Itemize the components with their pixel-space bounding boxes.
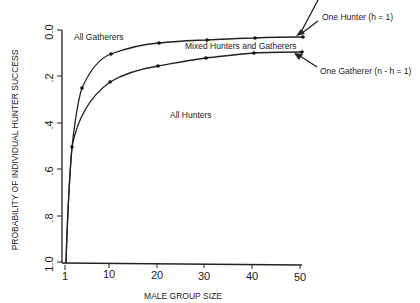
one-hunter-curve: [66, 37, 303, 263]
y-tick-labels: 0.0 .2 .4 .6 .8 1.0: [43, 24, 55, 271]
x-axis: [62, 263, 302, 265]
mixed-label: Mixed Hunters and Gatherers: [185, 41, 297, 51]
y-tick-4: .8: [43, 213, 55, 222]
x-tick-labels: 1 10 20 30 40 50: [62, 268, 306, 283]
y-tick-1: .2: [43, 73, 55, 82]
x-tick-2: 20: [151, 269, 163, 281]
all-hunters-label: All Hunters: [170, 110, 212, 120]
y-tick-0: 0.0: [43, 24, 55, 39]
all-gatherers-label: All Gatherers: [74, 32, 124, 42]
y-axis-title: PROBABILITY OF INDIVIDUAL HUNTER SUCCESS: [10, 49, 20, 250]
x-tick-0: 1: [62, 270, 68, 282]
one-gatherer-points: [108, 50, 304, 84]
x-tick-3: 30: [198, 270, 210, 282]
x-tick-1: 10: [103, 268, 115, 280]
x-tick-4: 40: [246, 270, 258, 282]
y-tick-2: .4: [43, 120, 55, 129]
one-hunter-label: One Hunter (h = 1): [322, 12, 393, 22]
y-tick-3: .6: [43, 166, 55, 175]
y-ticks: [57, 30, 62, 262]
x-tick-5: 50: [294, 271, 306, 283]
x-axis-title: MALE GROUP SIZE: [144, 291, 222, 301]
one-gatherer-curve: [66, 52, 302, 263]
chart: 0.0 .2 .4 .6 .8 1.0 1 10 20 30 40 50 MAL…: [0, 0, 420, 303]
y-tick-5: 1.0: [43, 256, 55, 271]
one-gatherer-label: One Gatherer (n - h = 1): [320, 66, 412, 76]
one-gatherer-arrow: [294, 53, 317, 67]
one-hunter-arrow: [296, 0, 318, 36]
